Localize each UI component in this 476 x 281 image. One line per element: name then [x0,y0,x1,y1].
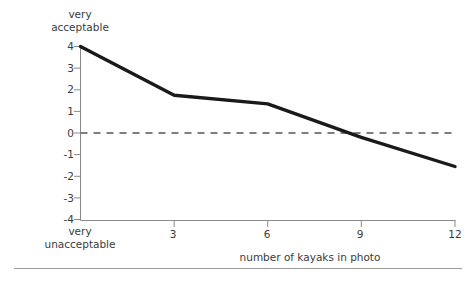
y-axis-ticks [74,47,81,220]
data-line-acceptability [81,47,456,167]
chart-figure: very acceptable very unacceptable 4 3 2 … [0,0,476,281]
x-axis-ticks [174,221,455,228]
chart-plot-area [0,0,476,281]
